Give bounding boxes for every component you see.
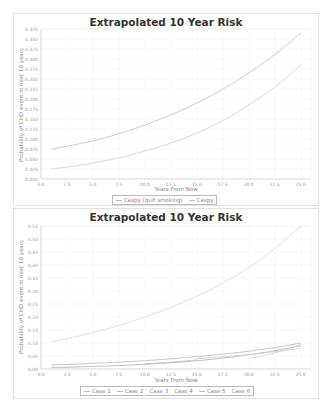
svg-text:0.100: 0.100 bbox=[25, 137, 38, 142]
line-swatch-icon bbox=[117, 391, 123, 392]
svg-text:0.125: 0.125 bbox=[25, 127, 38, 132]
top-chart-plot: 0.0000.0250.0500.0750.1000.1250.1500.175… bbox=[14, 14, 320, 207]
bottom-chart-legend: Case 1 Case 2 Case 3 Case 4 Case 5 Case … bbox=[80, 386, 254, 396]
svg-text:0.150: 0.150 bbox=[25, 117, 38, 122]
svg-text:0.175: 0.175 bbox=[25, 107, 38, 112]
legend-item: Case 2 bbox=[117, 388, 144, 394]
bottom-chart-xlabel: Years From Now bbox=[14, 377, 318, 383]
svg-text:0.40: 0.40 bbox=[28, 263, 38, 268]
top-chart-panel: Extrapolated 10 Year Risk 0.0000.0250.05… bbox=[13, 13, 319, 206]
legend-item: Case 6 bbox=[232, 388, 251, 394]
svg-text:0.025: 0.025 bbox=[25, 167, 38, 172]
line-swatch-icon bbox=[199, 391, 205, 392]
legend-item: Case 3 bbox=[149, 388, 168, 394]
top-chart-xlabel: Years From Now bbox=[14, 186, 318, 192]
svg-text:0.45: 0.45 bbox=[28, 250, 38, 255]
line-swatch-icon bbox=[116, 200, 122, 201]
svg-text:0.35: 0.35 bbox=[28, 276, 38, 281]
top-chart-legend: Caspy (quit smoking) Caspy bbox=[112, 195, 217, 205]
svg-text:0.55: 0.55 bbox=[28, 224, 38, 229]
svg-text:0.075: 0.075 bbox=[25, 147, 38, 152]
svg-text:0.15: 0.15 bbox=[28, 328, 38, 333]
legend-item: Case 4 bbox=[174, 388, 193, 394]
svg-text:0.250: 0.250 bbox=[25, 77, 38, 82]
legend-item: Caspy bbox=[189, 197, 214, 203]
svg-text:0.325: 0.325 bbox=[25, 47, 38, 52]
svg-text:0.05: 0.05 bbox=[28, 354, 38, 359]
svg-text:0.20: 0.20 bbox=[28, 315, 38, 320]
bottom-chart-panel: Extrapolated 10 Year Risk 0.000.050.100.… bbox=[13, 208, 319, 399]
legend-item: Caspy (quit smoking) bbox=[116, 197, 183, 203]
line-swatch-icon bbox=[189, 200, 195, 201]
svg-text:0.200: 0.200 bbox=[25, 97, 38, 102]
svg-text:0.225: 0.225 bbox=[25, 87, 38, 92]
svg-text:0.350: 0.350 bbox=[25, 37, 38, 42]
svg-text:0.10: 0.10 bbox=[28, 341, 38, 346]
svg-text:0.375: 0.375 bbox=[25, 27, 38, 32]
svg-text:0.000: 0.000 bbox=[25, 177, 38, 182]
svg-text:0.050: 0.050 bbox=[25, 157, 38, 162]
svg-text:0.25: 0.25 bbox=[28, 302, 38, 307]
top-chart-ylabel: Probability of CHD event in next 10 year… bbox=[18, 48, 24, 162]
svg-text:0.300: 0.300 bbox=[25, 57, 38, 62]
bottom-chart-plot: 0.000.050.100.150.200.250.300.350.400.45… bbox=[14, 209, 320, 400]
svg-text:0.275: 0.275 bbox=[25, 67, 38, 72]
line-swatch-icon bbox=[84, 391, 90, 392]
svg-text:0.50: 0.50 bbox=[28, 237, 38, 242]
legend-item: Case 5 bbox=[199, 388, 226, 394]
legend-item: Case 1 bbox=[84, 388, 111, 394]
svg-text:0.30: 0.30 bbox=[28, 289, 38, 294]
bottom-chart-ylabel: Probability of CHD event in next 10 year… bbox=[18, 240, 24, 354]
